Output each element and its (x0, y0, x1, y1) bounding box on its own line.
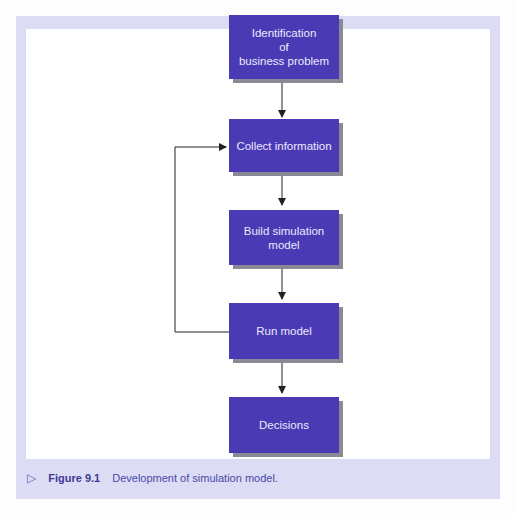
node-run-model: Run model (229, 303, 339, 359)
node-decisions: Decisions (229, 397, 339, 453)
node-run-label: Run model (256, 324, 312, 338)
node-identification-label: Identification of business problem (239, 26, 329, 68)
node-build-label: Build simulation model (244, 224, 325, 252)
node-decisions-label: Decisions (259, 418, 309, 432)
caption-triangle-icon: ▷ (27, 471, 36, 485)
figure-number: Figure 9.1 (48, 472, 100, 484)
node-collect-label: Collect information (236, 139, 331, 153)
node-identification: Identification of business problem (229, 15, 339, 79)
figure-caption: ▷ Figure 9.1 Development of simulation m… (27, 471, 278, 485)
node-collect-information: Collect information (229, 119, 339, 172)
caption-text: Development of simulation model. (112, 472, 278, 484)
node-build-simulation-model: Build simulation model (229, 210, 339, 265)
